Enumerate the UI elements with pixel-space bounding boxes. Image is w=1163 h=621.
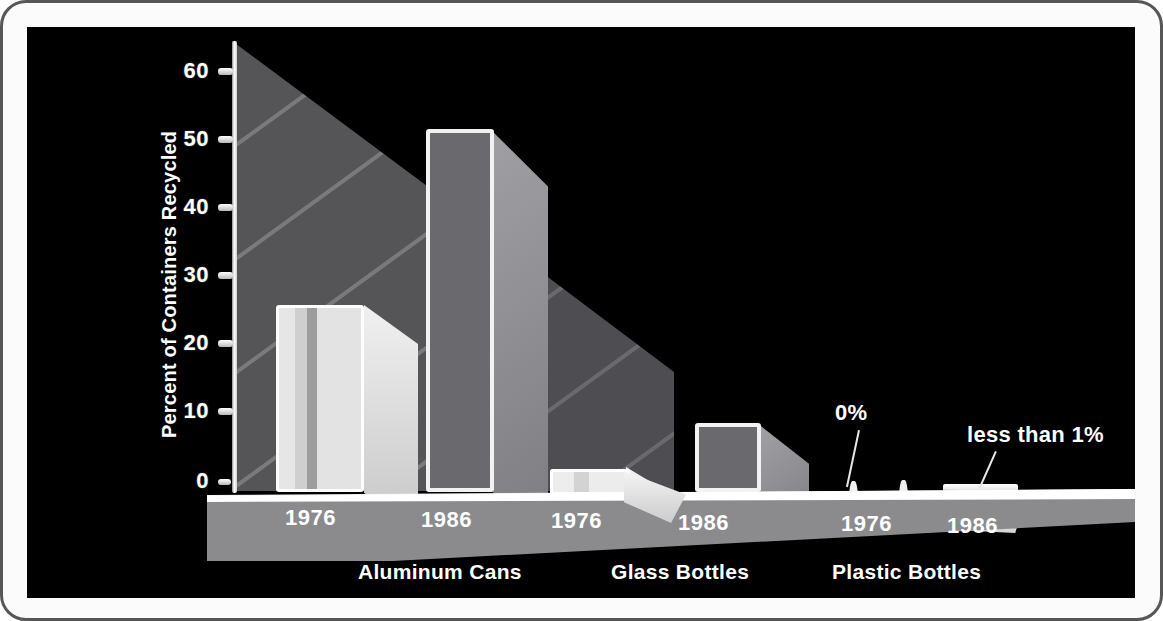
y-tick-60 (218, 68, 233, 75)
bar-glass-1976-overlay (550, 469, 630, 495)
annotation-plastic-1986: less than 1% (967, 422, 1104, 448)
category-label-aluminum-cans: Aluminum Cans (358, 560, 522, 584)
annotation-leader-plastic-1976 (846, 430, 860, 487)
y-tick-10 (218, 408, 233, 415)
y-tick-30 (218, 272, 233, 279)
y-tick-label-0: 0 (163, 468, 209, 494)
year-label-aluminum-1986: 1986 (421, 507, 472, 533)
bar-aluminum-1976 (276, 305, 364, 492)
image-frame: 60 50 40 30 20 10 0 Percent of Container… (0, 0, 1163, 621)
bar-aluminum-1976-face (276, 305, 364, 492)
bar-glass-1986 (695, 423, 761, 492)
bar-glass-1986-face (695, 423, 761, 492)
bar-aluminum-1986 (426, 129, 494, 492)
y-axis-line (232, 41, 237, 493)
category-label-glass-bottles: Glass Bottles (611, 560, 749, 584)
y-tick-50 (218, 136, 233, 143)
bar-aluminum-1986-side (490, 129, 548, 539)
year-label-glass-1976: 1976 (551, 508, 602, 534)
category-label-plastic-bottles: Plastic Bottles (832, 560, 981, 584)
year-label-plastic-1976: 1976 (841, 511, 892, 537)
year-label-aluminum-1976: 1976 (285, 505, 336, 531)
annotation-plastic-1976: 0% (835, 400, 867, 426)
year-label-plastic-1986: 1986 (947, 513, 998, 539)
year-label-glass-1986: 1986 (678, 510, 729, 536)
chart-canvas: 60 50 40 30 20 10 0 Percent of Container… (27, 27, 1135, 598)
y-tick-20 (218, 340, 233, 347)
y-tick-label-60: 60 (163, 58, 209, 84)
y-axis-title: Percent of Containers Recycled (158, 131, 181, 438)
bar-aluminum-1986-face (426, 129, 494, 492)
y-tick-40 (218, 204, 233, 211)
y-tick-0 (218, 479, 231, 485)
